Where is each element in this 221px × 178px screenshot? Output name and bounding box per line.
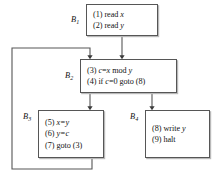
statement-4-num: (4) if [87,77,103,86]
basic-block-b3: (5) x=y (6) y=c (7) goto (3) [38,110,104,158]
statement-3: (3) c=x mod y [87,65,173,76]
statement-2: (2) read y [93,20,154,31]
statement-6-expr: y=c [56,129,69,138]
b3-statements: (5) x=y (6) y=c (7) goto (3) [45,117,100,151]
block-label-b2-subscript: 2 [70,75,73,81]
statement-6: (6) y=c [45,128,100,139]
statement-8-var: y [182,124,186,133]
statement-4: (4) if c=0 goto (8) [87,76,173,87]
statement-7-text: (7) goto (3) [45,141,82,150]
statement-1: (1) read x [93,9,154,20]
block-label-b1: B1 [71,15,79,25]
statement-3-rhs1: x [107,66,111,75]
statement-9-text: (9) halt [152,135,175,144]
statement-5-num: (5) [45,118,54,127]
statement-7: (7) goto (3) [45,140,100,151]
statement-5-expr: x=y [56,118,69,127]
statement-5: (5) x=y [45,117,100,128]
statement-3-mod: mod [112,66,126,75]
statement-8: (8) write y [152,123,206,134]
block-label-b3: B3 [23,112,31,122]
statement-3-num: (3) [87,66,96,75]
statement-2-var: y [120,21,124,30]
basic-block-b2: (3) c=x mod y (4) if c=0 goto (8) [80,59,177,93]
statement-1-text: (1) read [93,10,118,19]
block-label-b1-subscript: 1 [76,19,79,25]
basic-block-b1: (1) read x (2) read y [86,4,158,36]
statement-8-text: (8) write [152,124,180,133]
statement-9: (9) halt [152,134,206,145]
statement-3-rhs2: y [129,66,133,75]
block-label-b4-subscript: 4 [135,116,138,122]
basic-block-b4: (8) write y (9) halt [145,110,210,158]
b4-statements: (8) write y (9) halt [152,123,206,146]
block-label-b3-subscript: 3 [28,116,31,122]
statement-1-var: x [120,10,124,19]
statement-6-num: (6) [45,129,54,138]
block-label-b2: B2 [65,71,73,81]
control-flow-diagram: (1) read x (2) read y B1 (3) c=x mod y (… [0,0,221,178]
statement-4-rest: =0 goto (8) [109,77,145,86]
b2-statements: (3) c=x mod y (4) if c=0 goto (8) [87,65,173,88]
block-label-b4: B4 [130,112,138,122]
b1-statements: (1) read x (2) read y [93,9,154,32]
statement-2-text: (2) read [93,21,118,30]
